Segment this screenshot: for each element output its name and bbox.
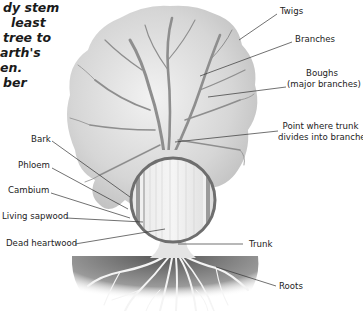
label-roots: Roots — [279, 281, 303, 292]
label-phloem: Phloem — [18, 160, 50, 171]
intro-paragraph: dy stem least tree to arth's en. ber — [0, 0, 56, 84]
label-twigs: Twigs — [280, 6, 303, 17]
label-branches: Branches — [295, 34, 335, 45]
intro-line: tree to — [3, 31, 59, 45]
label-trunk: Trunk — [249, 239, 272, 250]
label-bark: Bark — [31, 134, 51, 145]
label-cambium: Cambium — [8, 185, 49, 196]
intro-line: en. — [0, 61, 56, 75]
intro-line: arth's — [0, 46, 56, 60]
label-boughs-line1: Boughs — [287, 68, 357, 79]
label-boughs-line2: (major branches) — [287, 79, 357, 90]
label-dead-heartwood: Dead heartwood — [6, 238, 77, 249]
label-living-sapwood: Living sapwood — [2, 211, 68, 222]
soil-and-roots — [72, 256, 259, 311]
tree-diagram: dy stem least tree to arth's en. ber Twi… — [0, 0, 363, 311]
label-division-point: Point where trunk divides into branches — [278, 121, 363, 143]
trunk-cross-section — [131, 158, 215, 242]
label-division-line2: divides into branches — [278, 132, 363, 143]
label-division-line1: Point where trunk — [278, 121, 363, 132]
intro-line: ber — [3, 76, 59, 90]
intro-line: dy stem — [3, 1, 59, 15]
intro-line: least — [11, 16, 67, 30]
label-boughs: Boughs (major branches) — [287, 68, 357, 90]
